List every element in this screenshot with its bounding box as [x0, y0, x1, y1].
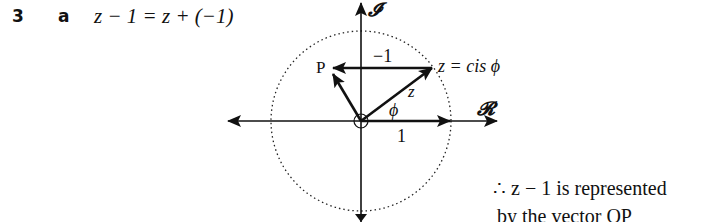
imag-axis-label: 𝓘 [368, 0, 381, 21]
unit-label: 1 [397, 126, 406, 147]
point-p-label: P [316, 58, 325, 78]
vector-op [333, 74, 361, 121]
conclusion-line-1: ∴ z − 1 is represented [493, 176, 667, 200]
conclusion-line-2: by the vector OP [497, 205, 632, 222]
real-axis-label: 𝓡 [477, 98, 495, 120]
angle-label: ϕ [389, 100, 398, 121]
vector-z-label: z [408, 82, 415, 102]
point-z-label: z = cis ϕ [438, 56, 500, 77]
minus-one-label: −1 [373, 46, 392, 67]
